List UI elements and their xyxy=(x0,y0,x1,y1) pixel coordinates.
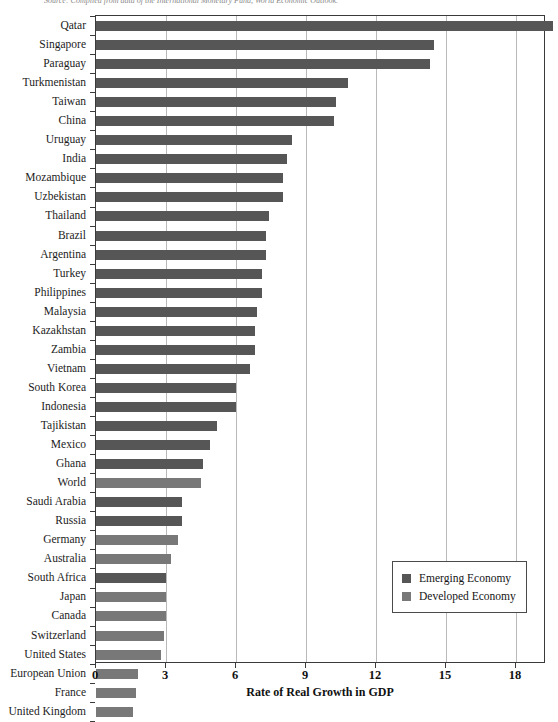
bar[interactable] xyxy=(96,269,262,279)
y-axis-label: Taiwan xyxy=(0,92,91,111)
y-axis-tick xyxy=(90,435,95,436)
bar[interactable] xyxy=(96,554,171,564)
bar[interactable] xyxy=(96,402,236,412)
y-axis-label: China xyxy=(0,111,91,130)
bar-row xyxy=(96,112,544,131)
bar[interactable] xyxy=(96,154,287,164)
y-axis-label: Australia xyxy=(0,549,91,568)
bar-row xyxy=(96,379,544,398)
bar[interactable] xyxy=(96,192,283,202)
y-axis-label: India xyxy=(0,149,91,168)
y-axis-tick xyxy=(90,492,95,493)
y-axis-label: Japan xyxy=(0,587,91,606)
y-axis-label: Turkey xyxy=(0,264,91,283)
bar-row xyxy=(96,169,544,188)
bar[interactable] xyxy=(96,288,262,298)
bar[interactable] xyxy=(96,592,166,602)
bar[interactable] xyxy=(96,231,266,241)
bar[interactable] xyxy=(96,326,255,336)
y-axis-tick xyxy=(90,473,95,474)
legend-item-emerging[interactable]: Emerging Economy xyxy=(402,569,517,587)
legend-label-emerging: Emerging Economy xyxy=(419,572,511,584)
chart-legend: Emerging Economy Developed Economy xyxy=(392,561,527,613)
bar[interactable] xyxy=(96,478,201,488)
y-axis-tick xyxy=(90,207,95,208)
y-axis-tick xyxy=(90,130,95,131)
bar[interactable] xyxy=(96,535,178,545)
y-axis-label: Turkmenistan xyxy=(0,73,91,92)
y-axis-labels: QatarSingaporeParaguayTurkmenistanTaiwan… xyxy=(0,16,91,721)
y-axis-label: Tajikistan xyxy=(0,416,91,435)
y-axis-label: Russia xyxy=(0,511,91,530)
bar-row xyxy=(96,207,544,226)
bar[interactable] xyxy=(96,97,336,107)
bar-row xyxy=(96,131,544,150)
bar[interactable] xyxy=(96,211,269,221)
y-axis-tick xyxy=(90,321,95,322)
bar[interactable] xyxy=(96,650,161,660)
bar[interactable] xyxy=(96,611,166,621)
bar[interactable] xyxy=(96,78,348,88)
bar[interactable] xyxy=(96,59,430,69)
bar-row xyxy=(96,341,544,360)
bar-row xyxy=(96,227,544,246)
bar-row xyxy=(96,17,544,36)
y-axis-label: Mexico xyxy=(0,435,91,454)
y-axis-tick xyxy=(90,568,95,569)
y-axis-label: European Union xyxy=(0,664,91,683)
y-axis-tick xyxy=(90,416,95,417)
bar[interactable] xyxy=(96,116,334,126)
bar-row xyxy=(96,188,544,207)
bar[interactable] xyxy=(96,516,182,526)
bar[interactable] xyxy=(96,135,292,145)
bar[interactable] xyxy=(96,250,266,260)
y-axis-label: Germany xyxy=(0,530,91,549)
bar[interactable] xyxy=(96,631,164,641)
bar-row xyxy=(96,55,544,74)
y-axis-tick xyxy=(90,226,95,227)
bar[interactable] xyxy=(96,173,283,183)
y-axis-label: Ghana xyxy=(0,454,91,473)
y-axis-tick xyxy=(90,454,95,455)
y-axis-tick xyxy=(90,168,95,169)
bar[interactable] xyxy=(96,421,217,431)
bar-row xyxy=(96,646,544,665)
bar-row xyxy=(96,474,544,493)
bar-row xyxy=(96,417,544,436)
y-axis-label: Saudi Arabia xyxy=(0,492,91,511)
y-axis-label: Canada xyxy=(0,606,91,625)
bar-row xyxy=(96,512,544,531)
y-axis-label: Vietnam xyxy=(0,359,91,378)
bar[interactable] xyxy=(96,364,250,374)
bar[interactable] xyxy=(96,21,553,31)
bar-row xyxy=(96,246,544,265)
bar[interactable] xyxy=(96,459,203,469)
legend-item-developed[interactable]: Developed Economy xyxy=(402,587,517,605)
y-axis-tick xyxy=(90,264,95,265)
y-axis-tick xyxy=(90,645,95,646)
y-axis-label: Paraguay xyxy=(0,54,91,73)
bar[interactable] xyxy=(96,345,255,355)
y-axis-tick xyxy=(90,149,95,150)
y-axis-tick xyxy=(90,626,95,627)
bar[interactable] xyxy=(96,707,133,717)
bar-row xyxy=(96,493,544,512)
y-axis-tick xyxy=(90,511,95,512)
x-axis-tick-label: 15 xyxy=(430,668,460,683)
bar-row xyxy=(96,284,544,303)
bar[interactable] xyxy=(96,40,434,50)
y-axis-tick xyxy=(90,245,95,246)
bar[interactable] xyxy=(96,307,257,317)
y-axis-tick xyxy=(90,187,95,188)
bar[interactable] xyxy=(96,440,210,450)
bar[interactable] xyxy=(96,497,182,507)
y-axis-tick xyxy=(90,397,95,398)
bar-row xyxy=(96,93,544,112)
x-axis-tick-label: 3 xyxy=(150,668,180,683)
bar[interactable] xyxy=(96,573,166,583)
y-axis-tick xyxy=(90,73,95,74)
x-axis-tick-label: 9 xyxy=(290,668,320,683)
bar[interactable] xyxy=(96,383,236,393)
y-axis-tick xyxy=(90,302,95,303)
x-axis-title: Rate of Real Growth in GDP xyxy=(95,685,545,700)
